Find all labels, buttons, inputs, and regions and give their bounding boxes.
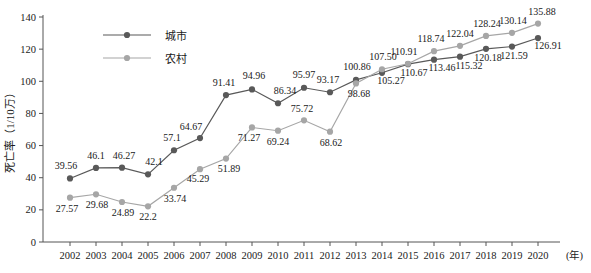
urban-data-point[interactable] [171, 147, 177, 153]
urban-data-label: 39.56 [55, 160, 78, 171]
rural-data-label: 27.57 [56, 203, 79, 214]
x-axis-tick-label: 2004 [112, 250, 134, 261]
urban-data-label: 46.1 [87, 150, 105, 161]
y-axis: 020406080100120140 [20, 12, 43, 248]
x-axis-tick-label: 2009 [242, 250, 263, 261]
rural-data-label: 110.91 [390, 46, 417, 57]
y-axis-tick-label: 0 [31, 237, 36, 248]
rural-data-point[interactable] [457, 43, 463, 49]
rural-data-label: 29.68 [86, 199, 109, 210]
urban-data-label: 64.67 [180, 121, 203, 132]
urban-data-point[interactable] [93, 165, 99, 171]
x-axis-tick-label: 2011 [294, 250, 315, 261]
rural-series-line [70, 24, 538, 207]
rural-data-point[interactable] [275, 128, 281, 134]
rural-data-point[interactable] [197, 166, 203, 172]
rural-data-point[interactable] [223, 156, 229, 162]
urban-data-label: 126.91 [534, 40, 562, 51]
chart-legend[interactable]: 城市农村 [103, 29, 187, 65]
rural-data-label: 33.74 [164, 193, 187, 204]
legend-marker-urban [124, 32, 130, 38]
rural-data-point[interactable] [327, 129, 333, 135]
rural-data-point[interactable] [67, 195, 73, 201]
x-axis-tick-label: 2003 [86, 250, 107, 261]
x-axis-tick-label: 2016 [424, 250, 445, 261]
urban-data-point[interactable] [327, 89, 333, 95]
urban-data-label: 121.59 [500, 50, 528, 61]
urban-data-label: 46.27 [113, 150, 136, 161]
rural-data-label: 75.72 [291, 103, 314, 114]
x-axis-tick-label: 2017 [450, 250, 471, 261]
x-axis-tick-label: 2006 [164, 250, 185, 261]
rural-data-point[interactable] [483, 33, 489, 39]
x-axis-tick-label: 2002 [60, 250, 81, 261]
urban-data-point[interactable] [301, 85, 307, 91]
rural-data-label: 51.89 [218, 163, 241, 174]
chart-container: 020406080100120140 200220032004200520062… [0, 0, 591, 273]
rural-data-label: 71.27 [238, 132, 261, 143]
y-axis-title: 死亡率（1/10万） [3, 87, 16, 173]
urban-data-label: 120.18 [474, 52, 502, 63]
urban-data-point[interactable] [275, 100, 281, 106]
rural-data-point[interactable] [509, 30, 515, 36]
rural-data-label: 122.04 [446, 28, 474, 39]
legend-label-rural[interactable]: 农村 [165, 52, 187, 65]
x-axis-unit-label: (年) [566, 249, 583, 262]
y-axis-tick-label: 60 [26, 140, 37, 151]
x-axis-tick-label: 2014 [372, 250, 394, 261]
rural-data-point[interactable] [119, 199, 125, 205]
rural-data-point[interactable] [379, 66, 385, 72]
legend-marker-rural [124, 55, 130, 61]
y-axis-title-text: 死亡率（1/10万） [3, 87, 16, 173]
urban-data-point[interactable] [197, 135, 203, 141]
rural-data-label: 68.62 [320, 137, 343, 148]
x-axis: 2002200320042005200620072008200920102011… [43, 242, 583, 262]
urban-data-label: 86.34 [274, 85, 297, 96]
rural-data-label: 118.74 [417, 33, 444, 44]
rural-data-label: 22.2 [139, 211, 157, 222]
rural-data-point[interactable] [405, 61, 411, 67]
legend-label-urban[interactable]: 城市 [165, 29, 187, 42]
urban-data-label: 110.67 [400, 67, 427, 78]
rural-data-point[interactable] [171, 185, 177, 191]
urban-data-label: 100.86 [343, 61, 371, 72]
rural-data-point[interactable] [535, 21, 541, 27]
rural-data-label: 98.68 [348, 88, 371, 99]
rural-data-point[interactable] [301, 117, 307, 123]
urban-data-label: 91.41 [213, 77, 236, 88]
x-axis-tick-label: 2015 [398, 250, 419, 261]
urban-data-label: 95.97 [293, 69, 316, 80]
x-axis-tick-label: 2010 [268, 250, 289, 261]
y-axis-tick-label: 20 [26, 204, 37, 215]
urban-data-point[interactable] [119, 165, 125, 171]
urban-data-point[interactable] [67, 175, 73, 181]
x-axis-tick-label: 2005 [138, 250, 159, 261]
x-axis-tick-label: 2007 [190, 250, 211, 261]
rural-data-label: 135.88 [528, 6, 556, 17]
rural-data-point[interactable] [145, 203, 151, 209]
y-axis-tick-label: 100 [20, 76, 36, 87]
x-axis-tick-label: 2018 [476, 250, 497, 261]
rural-data-point[interactable] [431, 48, 437, 54]
rural-data-point[interactable] [249, 124, 255, 130]
rural-data-label: 130.14 [499, 15, 527, 26]
rural-data-label: 24.89 [112, 207, 135, 218]
urban-data-label: 42.1 [145, 156, 163, 167]
urban-data-label: 94.96 [243, 70, 266, 81]
y-axis-tick-label: 80 [26, 108, 37, 119]
rural-data-point[interactable] [353, 80, 359, 86]
x-axis-tick-label: 2008 [216, 250, 237, 261]
y-axis-tick-label: 120 [20, 44, 36, 55]
urban-data-label: 57.1 [163, 132, 181, 143]
rural-data-point[interactable] [93, 191, 99, 197]
x-axis-tick-label: 2020 [528, 250, 549, 261]
rural-data-label: 128.24 [473, 18, 501, 29]
x-axis-tick-label: 2019 [502, 250, 523, 261]
urban-data-point[interactable] [223, 92, 229, 98]
urban-data-point[interactable] [249, 86, 255, 92]
urban-data-point[interactable] [145, 171, 151, 177]
rural-data-label: 45.29 [187, 173, 210, 184]
x-axis-tick-label: 2012 [320, 250, 341, 261]
urban-data-label: 113.46 [428, 62, 455, 73]
y-axis-tick-label: 140 [20, 12, 36, 23]
